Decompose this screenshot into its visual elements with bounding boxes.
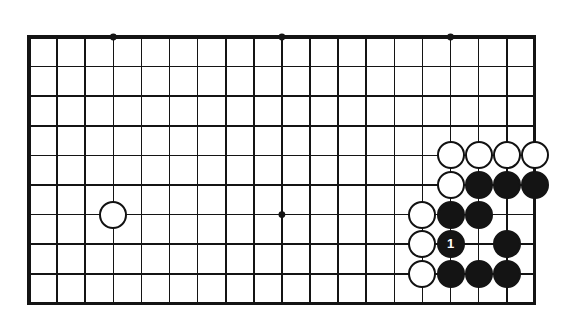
black-stone-c17-r7 [493,230,521,258]
white-stone-c14-r8 [408,260,436,288]
black-stone-c17-r8 [493,260,521,288]
black-stone-c17-r5 [493,171,521,199]
hoshi-center-top-star-point [279,34,286,41]
black-stone-move-1: 1 [437,230,465,258]
white-stone-left-side [99,201,127,229]
black-stone-c15-r8 [437,260,465,288]
black-stone-c16-r6 [465,201,493,229]
black-stone-c16-r8 [465,260,493,288]
go-board-diagram: 1 [0,0,579,330]
goban-grid [0,0,579,330]
hoshi-left-top-star-point [110,34,117,41]
white-stone-c15-r5 [437,171,465,199]
move-number-label: 1 [447,237,454,250]
hoshi-right-top-star-point [447,34,454,41]
white-stone-c14-r6 [408,201,436,229]
white-stone-c16-r4 [465,141,493,169]
white-stone-c17-r4 [493,141,521,169]
white-stone-c18-r4 [521,141,549,169]
white-stone-c15-r4 [437,141,465,169]
black-stone-c18-r5 [521,171,549,199]
black-stone-c15-r6 [437,201,465,229]
black-stone-c16-r5 [465,171,493,199]
hoshi-center-middle-star-point [279,211,286,218]
